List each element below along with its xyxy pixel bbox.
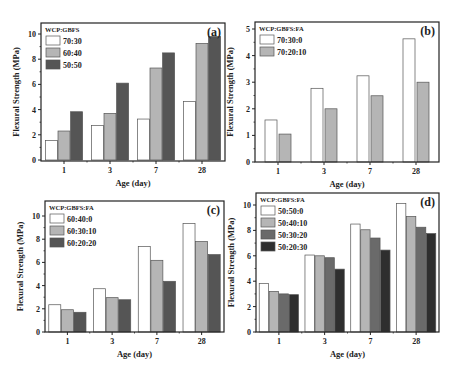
bar [61,310,73,332]
bar [289,295,298,332]
y-tick-label: 8 [36,235,40,244]
panel-label: (c) [207,203,220,217]
bar [335,269,344,332]
x-tick-label: 28 [198,166,206,175]
bar [45,140,57,160]
bar [305,255,314,332]
legend-swatch [46,60,60,69]
x-tick-label: 28 [198,337,206,346]
x-axis-title: Age (day) [117,349,152,359]
bar [396,203,405,332]
y-tick-label: 4 [247,277,251,286]
y-tick-label: 6 [247,252,251,261]
x-axis-title: Age (day) [115,178,150,188]
x-tick-label: 3 [108,166,112,175]
y-tick-label: 10 [243,201,251,210]
x-tick-label: 7 [368,167,372,176]
legend: WCP:GBFS70:3060:4050:50 [45,26,82,70]
x-axis-title: Age (day) [330,349,365,359]
y-tick-label: 4 [32,106,36,115]
x-tick-label: 28 [412,337,420,346]
bar [196,43,208,160]
bar [416,227,425,332]
bar [74,312,86,332]
legend: WCP:GBFS:FA50:50:050:40:1050:30:2050:20:… [260,196,307,252]
legend-swatch [261,206,275,215]
bar [325,109,337,162]
bar [49,305,61,332]
legend-title: WCP:GBFS:FA [49,204,94,211]
bar [119,300,131,332]
bar [137,119,149,160]
bar [265,120,277,162]
y-tick-label: 10 [28,30,36,39]
legend-label: 60:30:10 [67,227,96,236]
bar [163,281,175,332]
y-tick-label: 5 [246,25,250,34]
x-tick-label: 7 [368,337,372,346]
bars [265,39,429,162]
y-tick-label: 2 [247,303,251,312]
y-tick-label: 4 [36,282,40,291]
bar [311,88,323,162]
x-tick-label: 28 [412,167,420,176]
y-axis-title: Flexural Strength (MPa) [15,222,25,312]
panel-label: (d) [420,195,435,209]
x-tick-label: 1 [62,166,66,175]
x-tick-label: 7 [154,166,158,175]
y-tick-label: 0 [246,158,250,167]
y-tick-label: 1 [246,131,250,140]
legend-title: WCP:GBFS:FA [260,196,305,203]
legend-swatch [50,238,64,247]
bar [371,96,383,162]
legend: WCP:GBFS:FA70:30:070:20:10 [259,25,306,57]
bar [94,289,106,332]
legend-label: 50:50 [63,61,82,70]
bar [279,294,288,332]
bar [150,68,162,160]
y-tick-label: 8 [247,226,251,235]
y-tick-label: 2 [32,131,36,140]
y-tick-label: 0 [32,156,36,165]
y-tick-label: 6 [36,258,40,267]
bar [117,83,129,160]
x-tick-label: 3 [110,337,114,346]
legend-label: 50:50:0 [278,207,303,216]
x-tick-label: 1 [65,337,69,346]
panel-d: 137280246810Age (day)Flexural Strength (… [226,193,439,359]
bar [361,230,370,332]
figure-canvas: 137280246810Age (day)Flexural Strength (… [0,0,456,375]
legend-swatch [46,48,60,57]
bar [104,113,116,160]
bar [357,76,369,162]
x-tick-label: 1 [276,167,280,176]
x-tick-label: 3 [323,337,327,346]
bar [381,250,390,332]
bar [403,39,415,162]
y-tick-label: 2 [36,305,40,314]
bar [259,283,268,332]
legend-label: 60:20:20 [67,239,96,248]
x-axis-title: Age (day) [329,179,364,189]
y-tick-label: 0 [247,328,251,337]
y-tick-label: 10 [32,212,40,221]
legend-title: WCP:GBFS [45,26,80,33]
panel-label: (b) [420,24,435,38]
figure: 137280246810Age (day)Flexural Strength (… [0,0,456,375]
panel-label: (a) [207,25,221,39]
y-axis-title: Flexural Strength (MPa) [226,218,236,308]
legend-swatch [46,36,60,45]
y-tick-label: 4 [246,52,250,61]
bar [58,131,70,160]
bar [325,258,334,332]
y-tick-label: 2 [246,105,250,114]
legend-swatch [260,35,274,44]
bar [163,53,175,160]
legend-label: 50:30:20 [278,231,307,240]
legend: WCP:GBFS:FA60:40:060:30:1060:20:20 [49,204,96,248]
legend-label: 60:40 [63,49,82,58]
bar [417,82,429,162]
legend-label: 70:20:10 [277,48,306,57]
panel-c: 137280246810Age (day)Flexural Strength (… [15,201,224,359]
panel-a: 137280246810Age (day)Flexural Strength (… [11,23,225,188]
